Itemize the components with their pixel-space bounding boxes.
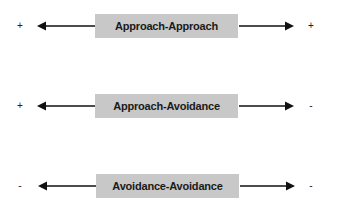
right-arrow-icon — [239, 94, 295, 118]
row-approach-avoidance: + Approach-Avoidance - — [0, 94, 343, 118]
right-sign: - — [305, 174, 317, 198]
conflict-label-box: Approach-Avoidance — [95, 94, 238, 118]
left-arrow-icon — [36, 14, 95, 38]
conflict-label-box: Avoidance-Avoidance — [96, 174, 239, 198]
row-approach-approach: + Approach-Approach + — [0, 14, 343, 38]
right-arrow-icon — [240, 174, 296, 198]
left-sign: + — [14, 94, 26, 118]
conflict-label-box: Approach-Approach — [95, 14, 238, 38]
right-arrow-icon — [239, 14, 295, 38]
right-sign: - — [305, 94, 317, 118]
left-sign: - — [14, 174, 26, 198]
left-sign: + — [14, 14, 26, 38]
row-avoidance-avoidance: - Avoidance-Avoidance - — [0, 174, 343, 198]
left-arrow-icon — [37, 174, 96, 198]
left-arrow-icon — [36, 94, 95, 118]
right-sign: + — [305, 14, 317, 38]
